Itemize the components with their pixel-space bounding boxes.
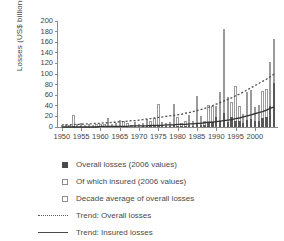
y-tick-label: 140	[40, 48, 53, 57]
trend-line-insured-losses	[62, 107, 274, 127]
trend-lines-group	[58, 21, 278, 127]
legend-row: Of which insured (2006 values)	[0, 173, 284, 190]
legend-row: Trend: Overall losses	[0, 207, 284, 224]
x-tick-label: 1980	[169, 132, 186, 141]
chart-plot-region: Losses (US$ billions) 020406080100120140…	[0, 0, 284, 150]
legend-symbol-wrap	[0, 232, 76, 233]
legend-row: Trend: Insured losses	[0, 224, 284, 241]
x-tick-label: 2000	[246, 132, 263, 141]
y-axis-title: Losses (US$ billions)	[15, 0, 24, 88]
y-tick-label: 60	[45, 90, 53, 99]
x-tick-mark	[139, 127, 140, 131]
y-tick-label: 160	[40, 37, 53, 46]
chart-legend: Overall losses (2006 values)Of which ins…	[0, 156, 284, 241]
legend-label: Trend: Insured losses	[76, 228, 153, 237]
x-tick-label: 1960	[92, 132, 109, 141]
x-tick-mark	[120, 127, 121, 131]
hollow-square-icon	[62, 179, 68, 185]
x-tick-mark	[236, 127, 237, 131]
dotted-line-icon	[38, 215, 68, 216]
x-tick-mark	[197, 127, 198, 131]
y-tick-label: 20	[45, 111, 53, 120]
y-tick-label: 100	[40, 69, 53, 78]
x-tick-label: 1950	[54, 132, 71, 141]
x-tick-label: 1965	[111, 132, 128, 141]
y-tick-label: 40	[45, 101, 53, 110]
chart-figure: Losses (US$ billions) 020406080100120140…	[0, 0, 284, 241]
plot-axes: 020406080100120140160180200 195019551960…	[57, 21, 278, 128]
x-tick-mark	[100, 127, 101, 131]
y-tick-label: 80	[45, 80, 53, 89]
legend-symbol-wrap	[0, 162, 76, 168]
solid-line-icon	[38, 232, 68, 233]
x-tick-label: 1995	[227, 132, 244, 141]
legend-row: Decade average of overall losses	[0, 190, 284, 207]
x-tick-mark	[255, 127, 256, 131]
legend-row: Overall losses (2006 values)	[0, 156, 284, 173]
legend-label: Of which insured (2006 values)	[76, 177, 186, 186]
hollow-square-icon	[62, 196, 68, 202]
x-tick-label: 1975	[150, 132, 167, 141]
y-tick-label: 180	[40, 27, 53, 36]
filled-square-icon	[62, 162, 68, 168]
legend-symbol-wrap	[0, 196, 76, 202]
x-tick-label: 1990	[208, 132, 225, 141]
legend-symbol-wrap	[0, 215, 76, 216]
legend-label: Trend: Overall losses	[76, 211, 151, 220]
x-tick-label: 1970	[131, 132, 148, 141]
x-tick-mark	[216, 127, 217, 131]
x-tick-label: 1985	[189, 132, 206, 141]
legend-label: Decade average of overall losses	[76, 194, 194, 203]
legend-symbol-wrap	[0, 179, 76, 185]
legend-label: Overall losses (2006 values)	[76, 160, 177, 169]
y-tick-label: 120	[40, 58, 53, 67]
y-tick-label: 0	[49, 122, 53, 131]
x-tick-mark	[158, 127, 159, 131]
x-tick-mark	[178, 127, 179, 131]
y-tick-label: 200	[40, 16, 53, 25]
x-tick-label: 1955	[73, 132, 90, 141]
